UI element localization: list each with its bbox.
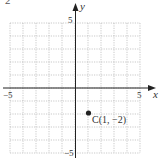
- point-c-label: C(1, −2): [92, 115, 126, 125]
- y-min-tick-label: −5: [64, 148, 74, 158]
- y-axis-arrow-icon: [73, 3, 79, 11]
- x-max-tick-label: 5: [137, 90, 142, 100]
- x-min-tick-label: −5: [3, 90, 13, 100]
- coordinate-plane: [0, 0, 160, 160]
- y-max-tick-label: 5: [68, 15, 73, 25]
- x-axis-label: x: [153, 89, 158, 99]
- y-axis-label: y: [80, 1, 85, 11]
- point-c-marker: [86, 110, 91, 115]
